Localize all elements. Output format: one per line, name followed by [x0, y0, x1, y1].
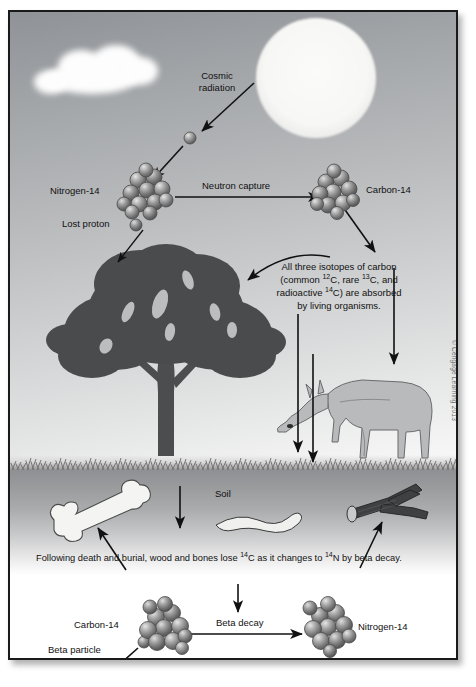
isotope-sup-14: 14 — [325, 286, 333, 293]
burial-decay-note: Following death and burial, wood and bon… — [36, 552, 402, 564]
label-lost-proton: Lost proton — [62, 218, 110, 230]
isotope-absorption-note: All three isotopes of carbon (common 12C… — [266, 260, 412, 312]
lost-proton-icon — [130, 219, 142, 231]
label-soil: Soil — [215, 488, 231, 500]
isotope-sup-13: 13 — [362, 273, 370, 280]
isotope-note-line2b: C, rare — [330, 274, 362, 285]
isotope-note-line3a: radioactive — [276, 287, 325, 298]
cosmic-line1: Cosmic — [201, 70, 233, 81]
nitrogen14-nucleus-top — [117, 163, 173, 220]
label-nitrogen14-bottom: Nitrogen-14 — [358, 621, 408, 633]
label-nitrogen14-top: Nitrogen-14 — [50, 185, 100, 197]
burial-note-c: N by beta decay. — [333, 553, 402, 563]
cosmic-particle-icon — [184, 132, 196, 144]
figure-panel: Cosmic radiation Nitrogen-14 Lost proton… — [8, 10, 458, 660]
isotope-note-line4: by living organisms. — [297, 300, 380, 311]
label-cosmic-radiation: Cosmic radiation — [182, 70, 252, 94]
label-beta-particle: Beta particle — [48, 644, 101, 656]
isotope-note-line1: All three isotopes of carbon — [281, 261, 396, 272]
label-beta-decay: Beta decay — [216, 617, 264, 629]
label-carbon14-top: Carbon-14 — [366, 184, 411, 196]
label-carbon14-bottom: Carbon-14 — [74, 619, 119, 631]
label-neutron-capture: Neutron capture — [202, 180, 270, 192]
isotope-note-line2a: (common — [280, 274, 322, 285]
cosmic-line2: radiation — [199, 82, 235, 93]
nitrogen14-nucleus-bottom — [303, 597, 356, 658]
figure-root: Cosmic radiation Nitrogen-14 Lost proton… — [0, 0, 476, 687]
burial-sup-14-c: 14 — [240, 551, 248, 558]
isotope-note-line2c: C, and — [370, 274, 398, 285]
copyright-credit: © Cengage Learning 2013 — [451, 340, 458, 500]
carbon14-nucleus-top — [311, 164, 360, 220]
burial-note-b: C as it changes to — [248, 553, 325, 563]
burial-sup-14-n: 14 — [325, 551, 333, 558]
burial-note-a: Following death and burial, wood and bon… — [36, 553, 240, 563]
isotope-note-line3b: C) are absorbed — [333, 287, 402, 298]
